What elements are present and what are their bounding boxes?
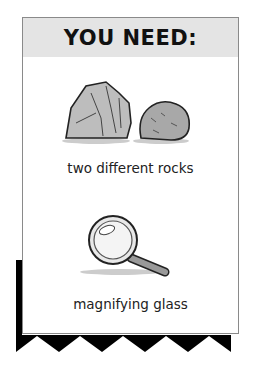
card-title: YOU NEED: — [64, 26, 197, 50]
item-label-magnifying-glass: magnifying glass — [23, 296, 238, 312]
supplies-card: YOU NEED: two different rocks magnifying… — [22, 17, 239, 334]
card-header: YOU NEED: — [23, 18, 238, 57]
magnifying-glass-illustration — [75, 210, 185, 280]
item-label-rocks: two different rocks — [23, 160, 238, 176]
rocks-illustration — [61, 78, 196, 148]
